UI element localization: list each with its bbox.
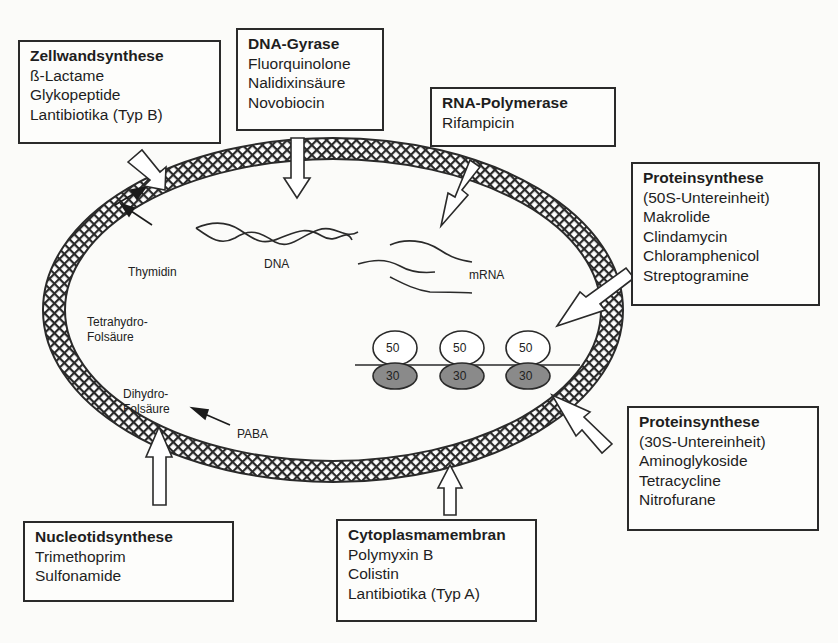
box-item: Novobiocin [248,93,374,113]
arrow-prot30-icon [552,395,612,453]
box-title: Zellwandsynthese [30,46,211,66]
box-title: Proteinsynthese [643,168,810,188]
box-item: Nalidixinsäure [248,73,374,93]
box-zellwandsynthese: Zellwandsynthese ß-Lactame Glykopeptide … [18,40,221,144]
thf-label-2: Folsäure [87,330,134,344]
ribosome-1-large-label: 50 [386,341,399,355]
box-item: Tetracycline [639,471,809,491]
box-rna-polymerase: RNA-Polymerase Rifampicin [430,87,616,147]
box-item: (50S-Untereinheit) [643,188,810,208]
box-title: Proteinsynthese [639,412,809,432]
paba-label: PABA [237,427,268,441]
ribosome-2-large-label: 50 [453,341,466,355]
box-item: Chloramphenicol [643,246,810,266]
box-item: Makrolide [643,207,810,227]
box-dna-gyrase: DNA-Gyrase Fluorquinolone Nalidixinsäure… [236,28,384,131]
box-item: Lantibiotika (Typ A) [348,584,527,604]
box-cytoplasmamembran: Cytoplasmamembran Polymyxin B Colistin L… [336,519,537,622]
dna-label: DNA [264,257,289,271]
box-item: Fluorquinolone [248,54,374,74]
thymidin-label: Thymidin [128,265,177,279]
box-item: ß-Lactame [30,66,211,86]
box-proteinsynthese-50s: Proteinsynthese (50S-Untereinheit) Makro… [631,162,820,306]
box-item: Glykopeptide [30,85,211,105]
box-title: Nucleotidsynthese [35,527,224,547]
box-item: Lantibiotika (Typ B) [30,105,211,125]
thf-label-1: Tetrahydro- [87,315,148,329]
box-proteinsynthese-30s: Proteinsynthese (30S-Untereinheit) Amino… [627,406,819,531]
box-item: Sulfonamide [35,566,224,586]
box-item: Polymyxin B [348,545,527,565]
dhf-label-1: Dihydro- [123,387,168,401]
arrow-membran-icon [438,465,462,515]
box-title: DNA-Gyrase [248,34,374,54]
box-item: Aminoglykoside [639,451,809,471]
box-item: Rifampicin [442,113,606,133]
box-item: Colistin [348,564,527,584]
box-title: RNA-Polymerase [442,93,606,113]
ribosome-1-small-label: 30 [386,369,399,383]
box-title: Cytoplasmamembran [348,525,527,545]
box-item: Nitrofurane [639,490,809,510]
box-item: Trimethoprim [35,547,224,567]
box-nucleotidsynthese: Nucleotidsynthese Trimethoprim Sulfonami… [23,521,234,602]
box-item: (30S-Untereinheit) [639,432,809,452]
dhf-label-2: Folsäure [123,402,170,416]
box-item: Streptogramine [643,266,810,286]
mrna-label: mRNA [469,268,504,282]
ribosome-3-large-label: 50 [519,341,532,355]
ribosome-2-small-label: 30 [453,369,466,383]
box-item: Clindamycin [643,227,810,247]
ribosome-3-small-label: 30 [519,369,532,383]
